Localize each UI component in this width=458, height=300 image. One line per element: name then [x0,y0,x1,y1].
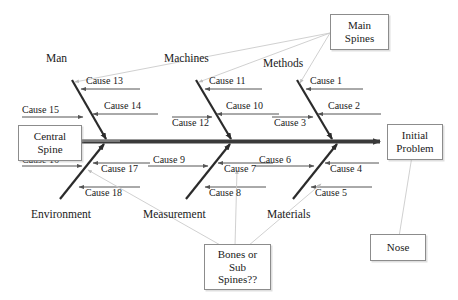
cause-label-14: Cause 14 [104,101,141,112]
callout-bones-line3: Spines?? [218,273,257,286]
callout-central-spine-line1: Central [34,130,66,143]
cause-label-1: Cause 1 [310,76,342,87]
callout-bones-line2: Sub [229,261,246,274]
cause-label-11: Cause 11 [209,76,246,87]
cause-label-9: Cause 9 [153,155,185,166]
callout-initial-problem[interactable]: Initial Problem [387,124,443,160]
cause-label-7: Cause 7 [224,164,256,175]
category-label-man: Man [46,52,67,64]
category-label-materials: Materials [267,208,310,220]
callout-nose[interactable]: Nose [370,234,426,261]
callout-central-spine-line2: Spine [37,143,62,156]
category-label-methods: Methods [263,57,303,69]
callout-nose-line1: Nose [387,241,410,254]
callout-initial-problem-line1: Initial [402,129,428,142]
callout-bones-sub-spines[interactable]: Bones or Sub Spines?? [204,244,271,290]
cause-label-3: Cause 3 [274,118,306,129]
cause-label-18: Cause 18 [85,188,122,199]
leader-sub-spines-to-measurement [235,170,237,246]
category-label-environment: Environment [31,208,91,220]
cause-label-2: Cause 2 [328,101,360,112]
callout-main-spines-line2: Spines [345,32,374,45]
cause-label-4: Cause 4 [330,164,362,175]
fishbone-diagram: Man Machines Methods Environment Measure… [0,0,458,300]
cause-label-10: Cause 10 [226,101,263,112]
callout-main-spines-line1: Main [348,19,371,32]
leader-nose-to-arrowhead [398,156,412,243]
cause-label-12: Cause 12 [172,118,209,129]
cause-label-17: Cause 17 [101,164,138,175]
callout-initial-problem-line2: Problem [396,142,433,155]
callout-bones-line1: Bones or [218,248,257,261]
cause-label-6: Cause 6 [259,155,291,166]
category-label-measurement: Measurement [143,208,206,220]
category-label-machines: Machines [164,52,209,64]
callout-main-spines[interactable]: Main Spines [330,14,389,50]
cause-label-5: Cause 5 [315,188,347,199]
cause-label-8: Cause 8 [209,188,241,199]
callout-central-spine[interactable]: Central Spine [18,125,82,161]
cause-label-13: Cause 13 [86,76,123,87]
cause-label-15: Cause 15 [22,105,59,116]
